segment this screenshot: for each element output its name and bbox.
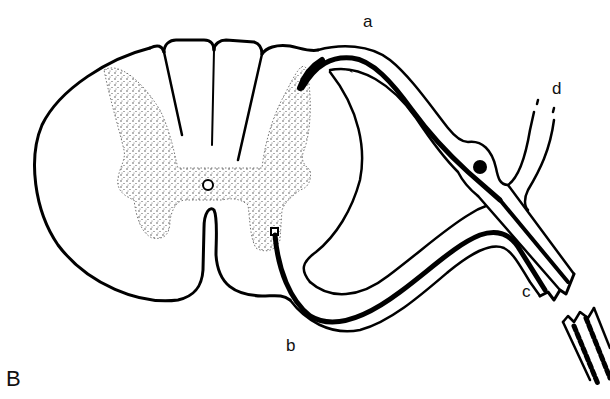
dorsal-root-ganglion: [473, 160, 487, 174]
label-c: c: [522, 283, 531, 300]
label-b: b: [286, 337, 295, 354]
ramus: [525, 100, 554, 210]
label-a: a: [363, 13, 372, 30]
central-canal: [203, 180, 213, 190]
panel-label: B: [6, 368, 21, 390]
dorsal-root: [302, 46, 534, 200]
gray-matter: [104, 66, 311, 251]
spinal-cord-diagram: [0, 0, 610, 399]
dorsal-septa: [164, 50, 262, 160]
peripheral-nerve-segment: [563, 308, 610, 384]
label-d: d: [552, 80, 561, 97]
